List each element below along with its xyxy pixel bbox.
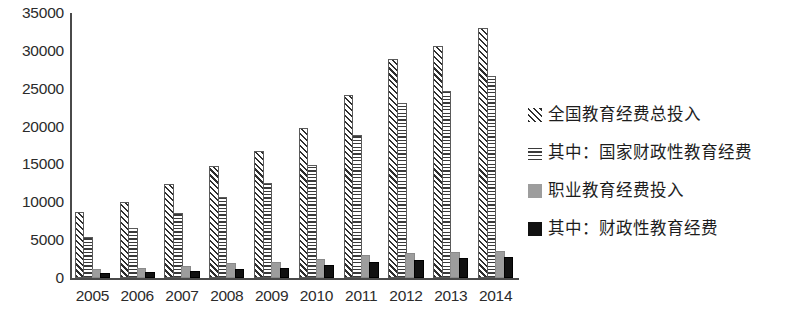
x-axis-tick-labels: 2005200620072008200920102011201220132014 [70, 286, 520, 310]
legend-item: 全国教育经费总投入 [528, 96, 786, 134]
bar-group [388, 13, 421, 278]
bar [504, 257, 514, 278]
plot-area [70, 13, 518, 278]
y-tick-label: 0 [2, 270, 64, 286]
bar-group [209, 13, 242, 278]
x-tick-label: 2007 [160, 286, 204, 306]
x-tick-label: 2012 [384, 286, 428, 306]
bar-group [433, 13, 466, 278]
bar [100, 273, 110, 278]
legend-item: 其中：财政性教育经费 [528, 210, 786, 248]
bar [397, 103, 407, 278]
chart-legend: 全国教育经费总投入其中：国家财政性教育经费职业教育经费投入其中：财政性教育经费 [528, 96, 786, 248]
bar [369, 262, 379, 278]
gray-solid-swatch [528, 184, 542, 198]
horizontal-hatch-swatch [528, 146, 542, 160]
y-tick-label: 30000 [2, 43, 64, 59]
legend-item-label: 其中：国家财政性教育经费 [548, 145, 752, 162]
y-tick-label: 15000 [2, 156, 64, 172]
y-tick-label: 10000 [2, 194, 64, 210]
bar [145, 272, 155, 278]
bar [190, 271, 200, 278]
black-solid-swatch [528, 222, 542, 236]
x-tick-label: 2006 [115, 286, 159, 306]
x-tick-label: 2013 [429, 286, 473, 306]
bar-group [164, 13, 197, 278]
bar-group [344, 13, 377, 278]
x-tick-label: 2008 [205, 286, 249, 306]
bar [235, 269, 245, 278]
bar-group [75, 13, 108, 278]
x-tick-label: 2010 [294, 286, 338, 306]
y-axis-tick-labels: 05000100001500020000250003000035000 [0, 0, 64, 312]
x-tick-label: 2014 [474, 286, 518, 306]
x-tick-label: 2005 [70, 286, 114, 306]
bar-group [478, 13, 511, 278]
y-tick-label: 5000 [2, 232, 64, 248]
bar [414, 260, 424, 278]
chart-container: 05000100001500020000250003000035000 2005… [0, 0, 790, 312]
y-tick-label: 20000 [2, 119, 64, 135]
legend-item: 职业教育经费投入 [528, 172, 786, 210]
x-tick-label: 2009 [250, 286, 294, 306]
diagonal-hatch-swatch [528, 108, 542, 122]
bar-group [254, 13, 287, 278]
y-tick-label: 35000 [2, 5, 64, 21]
bar [280, 268, 290, 278]
legend-item-label: 全国教育经费总投入 [548, 107, 701, 124]
legend-item-label: 职业教育经费投入 [548, 183, 684, 200]
bar-group [120, 13, 153, 278]
legend-item: 其中：国家财政性教育经费 [528, 134, 786, 172]
x-axis-line [70, 278, 519, 280]
y-tick-label: 25000 [2, 81, 64, 97]
bar [487, 76, 497, 278]
x-tick-label: 2011 [339, 286, 383, 306]
bar-group [299, 13, 332, 278]
bar [459, 258, 469, 278]
bar [324, 265, 334, 278]
bar [442, 91, 452, 278]
legend-item-label: 其中：财政性教育经费 [548, 221, 718, 238]
